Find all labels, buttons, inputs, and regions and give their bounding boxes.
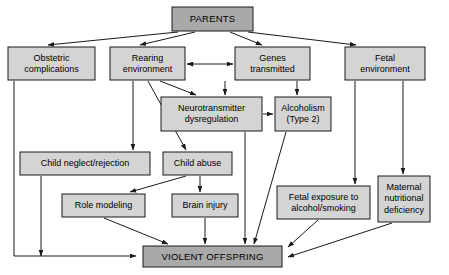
node-fetalenv-line2: environment (360, 64, 410, 74)
node-rearing-environment[interactable]: Rearing environment (110, 47, 185, 80)
node-alcoholism-type2[interactable]: Alcoholism (Type 2) (275, 97, 331, 131)
node-alcoholism-line1: Alcoholism (281, 103, 325, 113)
edge-parents-obstetric (48, 32, 178, 45)
node-neurotransmitter-line1: Neurotransmitter (178, 103, 245, 113)
node-genes-transmitted[interactable]: Genes transmitted (235, 47, 310, 80)
node-maternal-line2: nutritional (384, 193, 423, 203)
node-braininjury-label: Brain injury (182, 200, 228, 210)
node-maternal-line3: deficiency (384, 205, 425, 215)
node-fetal-environment[interactable]: Fetal environment (345, 47, 425, 80)
node-neurotransmitter-line2: dysregulation (185, 114, 239, 124)
node-rearing-line1: Rearing (132, 53, 164, 63)
node-maternal-nutritional-deficiency[interactable]: Maternal nutritional deficiency (378, 176, 430, 222)
node-rearing-line2: environment (123, 64, 173, 74)
node-violent-offspring[interactable]: VIOLENT OFFSPRING (143, 246, 282, 267)
node-fetalenv-line1: Fetal (375, 53, 395, 63)
node-role-modeling[interactable]: Role modeling (62, 194, 145, 217)
node-abuse-label: Child abuse (174, 158, 222, 168)
edge-maternal-violent (288, 223, 392, 257)
node-parents-label: PARENTS (190, 13, 236, 24)
diagram-canvas: PARENTS Obstetric complications Rearing … (0, 0, 449, 275)
edge-abuse-rolemodel (130, 176, 186, 192)
node-obstetric-line1: Obstetric (33, 53, 70, 63)
node-brain-injury[interactable]: Brain injury (172, 194, 238, 217)
node-fetalexposure-line2: alcohol/smoking (291, 203, 356, 213)
node-fetal-exposure[interactable]: Fetal exposure to alcohol/smoking (277, 186, 370, 219)
node-parents[interactable]: PARENTS (172, 7, 253, 31)
node-violent-label: VIOLENT OFFSPRING (162, 251, 264, 262)
node-layer: PARENTS Obstetric complications Rearing … (8, 7, 430, 267)
edge-fetalexposure-violent (288, 220, 318, 247)
node-obstetric-complications[interactable]: Obstetric complications (8, 47, 95, 80)
node-obstetric-line2: complications (24, 64, 79, 74)
node-alcoholism-line2: (Type 2) (286, 114, 319, 124)
edge-parents-rearing (140, 32, 195, 45)
edge-parents-fetalenv (248, 32, 356, 45)
node-neglect-label: Child neglect/rejection (41, 158, 130, 168)
edge-rearing-neurotransmitter (160, 81, 196, 95)
node-maternal-line1: Maternal (386, 182, 421, 192)
node-genes-line2: transmitted (250, 64, 295, 74)
node-child-neglect-rejection[interactable]: Child neglect/rejection (20, 152, 150, 175)
edge-rolemodel-violent (104, 218, 168, 244)
node-genes-line1: Genes (259, 53, 286, 63)
node-child-abuse[interactable]: Child abuse (163, 152, 232, 175)
node-neurotransmitter-dysregulation[interactable]: Neurotransmitter dysregulation (161, 97, 262, 131)
flowchart-svg: PARENTS Obstetric complications Rearing … (0, 0, 449, 275)
edge-parents-genes (230, 32, 262, 45)
node-rolemodel-label: Role modeling (75, 200, 133, 210)
node-fetalexposure-line1: Fetal exposure to (289, 192, 359, 202)
